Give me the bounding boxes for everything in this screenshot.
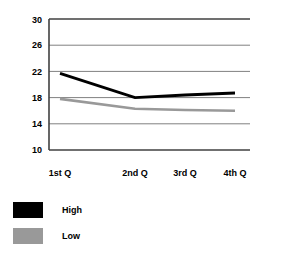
ytick-label-22: 22 (32, 67, 42, 77)
ytick-label-30: 30 (32, 15, 42, 25)
xtick-label-1st-q: 1st Q (49, 168, 72, 178)
legend-swatch-low-icon (13, 228, 43, 244)
xtick-label-4th-q: 4th Q (223, 168, 246, 178)
legend-label-low: Low (62, 231, 80, 241)
ytick-label-18: 18 (32, 93, 42, 103)
legend-swatch-high-icon (13, 202, 43, 218)
ytick-label-10: 10 (32, 145, 42, 155)
plot-background (49, 19, 250, 150)
chart-legend: High Low (13, 197, 133, 249)
chart-canvas: 10 14 18 22 26 30 1st Q 2nd Q 3rd Q 4th … (0, 0, 288, 190)
chart-plot-area: 10 14 18 22 26 30 1st Q 2nd Q 3rd Q 4th … (0, 0, 288, 190)
line-chart: 10 14 18 22 26 30 1st Q 2nd Q 3rd Q 4th … (0, 0, 288, 261)
ytick-label-14: 14 (32, 119, 42, 129)
legend-label-high: High (62, 205, 82, 215)
xtick-label-2nd-q: 2nd Q (122, 168, 148, 178)
xtick-label-3rd-q: 3rd Q (173, 168, 197, 178)
legend-item-low: Low (13, 223, 133, 249)
ytick-label-26: 26 (32, 40, 42, 50)
legend-item-high: High (13, 197, 133, 223)
